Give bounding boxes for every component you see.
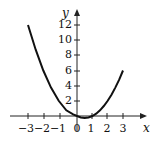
x-tick-label: 0 bbox=[74, 122, 81, 135]
x-axis-arrow-icon bbox=[140, 113, 147, 119]
y-tick-label: 4 bbox=[65, 79, 72, 92]
y-tick-label: 10 bbox=[58, 33, 72, 46]
parabola-chart: −3 −2 −1 0 1 2 3 2 4 6 8 10 12 x y bbox=[0, 0, 153, 141]
y-tick-labels: 2 4 6 8 10 12 bbox=[58, 18, 72, 107]
chart-canvas: −3 −2 −1 0 1 2 3 2 4 6 8 10 12 x y bbox=[0, 0, 153, 141]
y-tick-label: 6 bbox=[65, 64, 72, 77]
x-tick-labels: −3 −2 −1 0 1 2 3 bbox=[18, 122, 127, 135]
x-tick-label: 3 bbox=[120, 122, 127, 135]
x-tick-label: 2 bbox=[104, 122, 111, 135]
x-tick-label: −3 bbox=[18, 122, 34, 135]
y-tick-label: 2 bbox=[65, 94, 72, 107]
x-tick-label: −1 bbox=[50, 122, 66, 135]
x-tick-label: 1 bbox=[88, 122, 95, 135]
y-axis-label: y bbox=[61, 6, 69, 20]
y-axis-arrow-icon bbox=[74, 9, 80, 16]
y-tick-label: 8 bbox=[65, 48, 72, 61]
x-tick-label: −2 bbox=[34, 122, 50, 135]
x-axis-label: x bbox=[143, 121, 150, 135]
